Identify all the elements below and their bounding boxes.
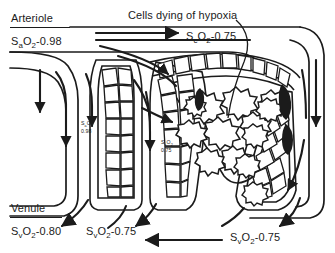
- inline-capillary-value: 0.75: [161, 147, 172, 153]
- venous-left-saturation-label: SvO2-0.80: [11, 226, 61, 240]
- arterial-saturation-label: SaO2-0.98: [11, 36, 62, 50]
- arteriole-label: Arteriole: [11, 13, 53, 24]
- inline-capillary-saturation-label: ScO20.75: [161, 139, 173, 154]
- inline-capillary-gas-sub: 2: [171, 143, 173, 147]
- capillary-value: -0.75: [211, 30, 237, 42]
- inline-arterial-saturation-label: SaO20.98: [81, 120, 93, 135]
- endothelial-cells-left: [102, 68, 133, 197]
- venous-bottom-value: -0.75: [255, 231, 281, 243]
- capillary-gas: O: [198, 30, 207, 42]
- venous-bottom-saturation-label: SvO2-0.75: [230, 232, 280, 246]
- venous-mid-value: -0.75: [111, 225, 137, 237]
- venous-mid-saturation-label: SvO2-0.75: [86, 226, 136, 240]
- inline-arterial-value: 0.98: [81, 128, 92, 134]
- arterial-gas: O: [23, 35, 32, 47]
- venous-bottom-gas: O: [242, 231, 251, 243]
- venous-left-gas: O: [23, 225, 32, 237]
- venule-underline: [10, 217, 62, 218]
- venous-left-value: -0.80: [36, 225, 62, 237]
- arteriole-underline: [10, 27, 70, 28]
- arterial-value: -0.98: [36, 35, 62, 47]
- hypoxia-microcirculation-figure: Arteriole SaO2-0.98 Cells dying of hypox…: [0, 0, 335, 253]
- inline-arterial-gas-sub: 2: [91, 124, 93, 128]
- capillary-saturation-label: ScO2-0.75: [186, 31, 236, 45]
- hypoxia-callout-label: Cells dying of hypoxia: [128, 10, 237, 21]
- venous-mid-gas: O: [98, 225, 107, 237]
- venule-label: Venule: [11, 203, 45, 214]
